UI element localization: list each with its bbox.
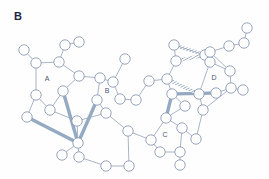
node-circle [144, 76, 154, 86]
ring-label-A: A [45, 75, 50, 82]
highlight-bond-solid [31, 119, 74, 141]
node-circle [180, 101, 190, 111]
node-circle [22, 112, 32, 122]
node-circle [74, 71, 84, 81]
node-circle [131, 95, 141, 105]
node-circle [155, 147, 165, 157]
bond-line [110, 116, 124, 128]
bond-line [63, 65, 75, 73]
node-circle [95, 73, 105, 83]
bond-line [115, 87, 118, 95]
bond-line [77, 126, 78, 138]
ring-label-D: D [211, 74, 216, 81]
bond-line [221, 90, 227, 92]
node-circle [31, 58, 41, 68]
node-circle [205, 57, 215, 67]
node-circle [115, 94, 125, 104]
node-circle [167, 89, 177, 99]
node-circle [171, 56, 181, 66]
node-circle [169, 40, 179, 50]
node-circle [74, 152, 84, 162]
node-circle [161, 113, 171, 123]
node-circle [101, 161, 111, 171]
bond-line [170, 121, 178, 126]
bond-line [27, 54, 32, 60]
bond-line [41, 62, 54, 63]
node-circle [225, 66, 235, 76]
ring-label-B: B [105, 87, 110, 94]
node-circle [191, 134, 201, 144]
bond-line [186, 131, 192, 136]
bond-line [215, 47, 225, 50]
bond-line [200, 99, 202, 105]
bond-line [84, 159, 102, 165]
bond-line [39, 99, 46, 107]
molecular-network-diagram: ABCD [0, 0, 269, 179]
bond-line [154, 80, 162, 81]
node-circle [198, 105, 208, 115]
bond-line [128, 136, 129, 161]
bond-line [169, 84, 171, 90]
bond-line [29, 100, 34, 113]
bond-line [154, 144, 157, 148]
node-circle [239, 38, 249, 48]
bond-line [245, 33, 246, 38]
node-circle [146, 135, 156, 145]
highlight-bond-solid [167, 98, 171, 113]
node-circle [226, 83, 236, 93]
bond-line [180, 133, 181, 147]
bond-line [133, 133, 147, 138]
bond-line [197, 115, 202, 134]
node-circle [211, 88, 221, 98]
highlight-bond-hatched [180, 56, 200, 60]
bond-line [98, 83, 100, 95]
node-circle [162, 74, 172, 84]
bond-line [176, 97, 182, 102]
node-circle [123, 126, 133, 136]
bond-line [175, 50, 176, 56]
bond-line [61, 50, 64, 58]
node-circle [19, 45, 29, 55]
bond-line [179, 47, 201, 54]
bond-line [169, 65, 174, 74]
node-circle [72, 116, 82, 126]
bond-line [53, 95, 60, 106]
ring-label-C: C [162, 131, 167, 138]
node-circle [74, 37, 84, 47]
node-circle [177, 123, 187, 133]
node-circle [31, 90, 41, 100]
node-circle [224, 41, 234, 51]
node-circle [238, 85, 248, 95]
node-circle [101, 108, 111, 118]
node-circle [54, 57, 64, 67]
node-circle [242, 23, 252, 33]
node-circle [120, 54, 130, 64]
bond-line [201, 67, 209, 90]
figure-panel: B ABCD [0, 0, 269, 179]
node-circle [205, 47, 215, 57]
bond-line [67, 79, 76, 87]
bond-line [100, 104, 103, 109]
node-circle [124, 161, 134, 171]
node-circle [194, 89, 204, 99]
node-circle [58, 86, 68, 96]
bond-line [234, 44, 239, 45]
node-circle [57, 150, 67, 160]
bond-line [170, 109, 181, 116]
bond-line [139, 85, 146, 96]
node-circle [92, 95, 102, 105]
node-layer [19, 23, 252, 171]
node-circle [45, 105, 55, 115]
bond-line [84, 76, 95, 77]
node-circle [73, 138, 83, 148]
bond-line [66, 146, 74, 152]
node-circle [175, 147, 185, 157]
node-circle [108, 77, 118, 87]
node-circle [60, 40, 70, 50]
bond-line [115, 63, 122, 77]
node-circle [175, 160, 185, 170]
